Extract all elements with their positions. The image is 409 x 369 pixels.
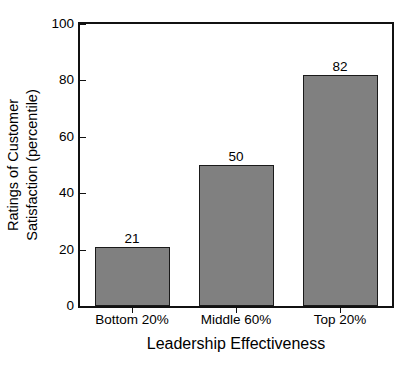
y-axis-tick-mark: [80, 80, 86, 81]
x-axis-tick-label: Middle 60%: [201, 312, 272, 328]
y-axis-tick-mark: [80, 137, 86, 138]
x-axis-tick-label: Bottom 20%: [95, 312, 169, 328]
bar-value-label: 82: [332, 60, 347, 74]
y-axis-tick-mark: [80, 193, 86, 194]
y-axis-tick-label: 60: [46, 130, 74, 144]
y-axis-tick-label: 20: [46, 243, 74, 257]
y-axis-title: Ratings of Customer Satisfaction (percen…: [0, 0, 46, 330]
y-axis-tick-mark: [80, 24, 86, 25]
y-axis-tick-mark: [80, 306, 86, 307]
plot-area: 215082: [78, 22, 394, 308]
y-axis-title-line-1: Ratings of Customer: [4, 89, 23, 241]
x-axis-title: Leadership Effectiveness: [78, 334, 394, 353]
y-axis-tick-label: 40: [46, 186, 74, 200]
y-axis-tick-label: 0: [46, 299, 74, 313]
x-axis-tick-label: Top 20%: [314, 312, 367, 328]
bar-value-label: 50: [228, 150, 243, 164]
x-axis-tick-labels: Bottom 20%Middle 60%Top 20%: [78, 312, 394, 332]
bar-value-label: 21: [124, 232, 139, 246]
y-axis-tick-label: 100: [46, 17, 74, 31]
bar-chart-figure: Ratings of Customer Satisfaction (percen…: [0, 0, 409, 369]
bar: 21: [95, 247, 170, 306]
y-axis-title-line-2: Satisfaction (percentile): [23, 89, 42, 241]
y-axis-tick-mark: [80, 250, 86, 251]
y-axis-tick-label: 80: [46, 73, 74, 87]
bar: 50: [199, 165, 274, 306]
bar: 82: [303, 75, 378, 306]
y-axis-tick-labels: 020406080100: [44, 0, 74, 369]
